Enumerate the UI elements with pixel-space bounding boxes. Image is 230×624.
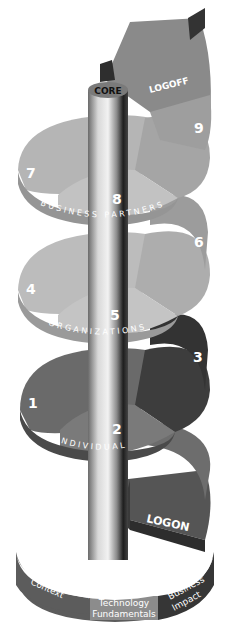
core-pole [88, 82, 128, 560]
step-6: 6 [194, 234, 204, 250]
step-3: 3 [193, 349, 203, 365]
logon-ramp [120, 470, 211, 552]
step-5: 5 [110, 307, 120, 323]
step-8: 8 [112, 191, 122, 207]
step-2: 2 [112, 421, 122, 437]
base-label-technology-line1: Technology [98, 598, 150, 608]
step-4: 4 [26, 281, 36, 297]
core-label: CORE [94, 86, 121, 96]
step-1: 1 [28, 395, 38, 411]
step-9: 9 [194, 120, 204, 136]
step-7: 7 [26, 165, 36, 181]
spiral-diagram: CORE LOGOFF LOGON 9 7 8 BUSINESS PARTNER… [0, 0, 230, 624]
base-label-technology-line2: Fundamentals [92, 609, 156, 619]
